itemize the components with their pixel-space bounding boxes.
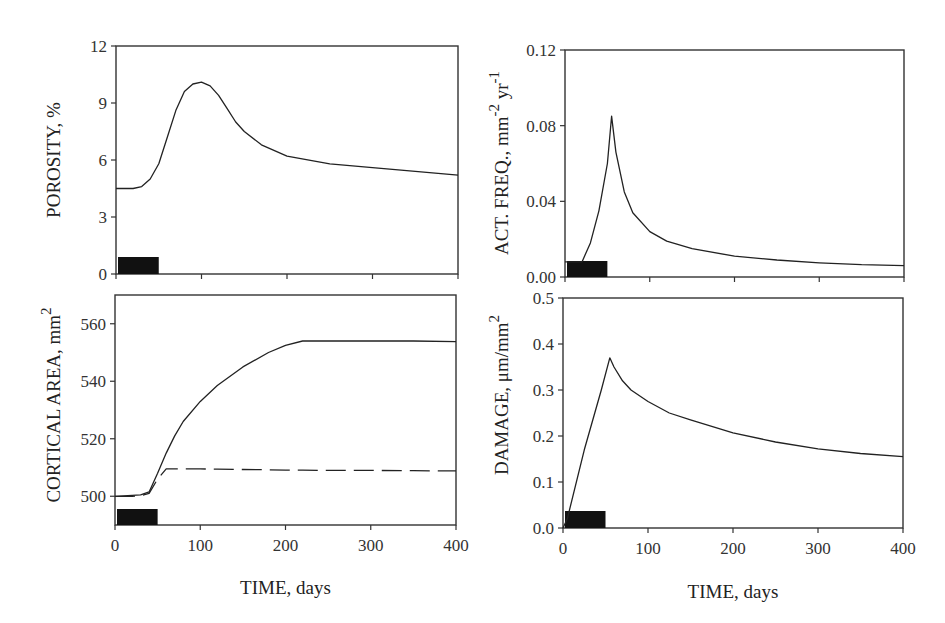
x-axis-label: TIME, days xyxy=(688,581,779,602)
y-tick-label: 0.3 xyxy=(533,381,554,400)
y-tick-label: 540 xyxy=(81,372,107,391)
y-axis-label: DAMAGE, μm/mm2 xyxy=(486,315,512,475)
x-tick-label: 200 xyxy=(273,536,299,555)
damage-panel: 0.00.10.20.30.40.50100200300400DAMAGE, μ… xyxy=(486,289,916,602)
x-tick-label: 300 xyxy=(358,536,384,555)
y-tick-label: 0.5 xyxy=(533,289,554,308)
x-tick-label: 300 xyxy=(805,539,831,558)
y-tick-label: 520 xyxy=(81,430,107,449)
x-tick-label: 400 xyxy=(443,536,469,555)
y-axis-label: ACT. FREQ., mm-2 yr-1 xyxy=(486,71,512,255)
y-tick-label: 3 xyxy=(99,208,108,227)
y-tick-label: 0.0 xyxy=(533,519,554,538)
activation-frequency-panel: 0.000.040.080.12ACT. FREQ., mm-2 yr-1 xyxy=(486,41,904,287)
series-line-damage xyxy=(563,358,903,528)
x-tick-label: 0 xyxy=(559,539,568,558)
series-line-dashed xyxy=(115,469,456,496)
y-tick-label: 500 xyxy=(81,487,107,506)
cortical-area-panel: 5005205405600100200300400CORTICAL AREA, … xyxy=(38,295,469,598)
plot-frame xyxy=(116,46,458,274)
y-tick-label: 0.08 xyxy=(526,117,556,136)
loading-period-bar xyxy=(118,257,159,274)
y-axis-label: POROSITY, % xyxy=(43,102,64,218)
y-tick-label: 6 xyxy=(99,151,108,170)
plot-frame xyxy=(563,298,903,528)
y-tick-label: 0.04 xyxy=(526,192,556,211)
y-tick-label: 0.00 xyxy=(526,268,556,287)
series-line-activation-frequency xyxy=(565,116,904,265)
x-tick-label: 100 xyxy=(635,539,661,558)
series-line-porosity xyxy=(116,82,458,188)
x-tick-label: 400 xyxy=(890,539,916,558)
y-tick-label: 0.4 xyxy=(533,335,555,354)
plot-frame xyxy=(565,50,904,277)
y-tick-label: 0.2 xyxy=(533,427,554,446)
y-tick-label: 0.12 xyxy=(526,41,556,60)
loading-period-bar xyxy=(565,511,606,528)
y-tick-label: 12 xyxy=(90,37,107,56)
x-tick-label: 100 xyxy=(188,536,214,555)
y-tick-label: 9 xyxy=(99,94,108,113)
series-line-solid xyxy=(115,341,456,496)
y-tick-label: 0.1 xyxy=(533,473,554,492)
figure-root: 036912POROSITY, % 0.000.040.080.12ACT. F… xyxy=(0,0,945,623)
y-tick-label: 560 xyxy=(81,315,107,334)
x-tick-label: 0 xyxy=(111,536,120,555)
loading-period-bar xyxy=(117,509,158,525)
y-axis-label: CORTICAL AREA, mm2 xyxy=(38,307,64,502)
plot-frame xyxy=(115,295,456,525)
porosity-panel: 036912POROSITY, % xyxy=(43,37,458,284)
loading-period-bar xyxy=(567,261,607,277)
y-tick-label: 0 xyxy=(99,265,108,284)
x-axis-label: TIME, days xyxy=(240,577,331,598)
x-tick-label: 200 xyxy=(720,539,746,558)
